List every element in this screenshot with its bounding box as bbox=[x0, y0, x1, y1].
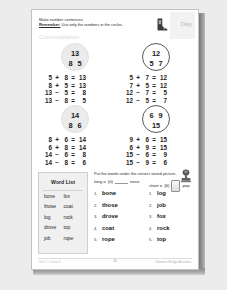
section-watermark: Consolidation bbox=[39, 34, 79, 40]
answer-number: 1. bbox=[149, 191, 157, 196]
eq-result: 14 bbox=[75, 136, 86, 143]
word-list-divider bbox=[43, 190, 83, 191]
eq-result: 8 bbox=[75, 89, 86, 96]
number-circle-3: 14 8 6 bbox=[61, 105, 89, 133]
word-list-box: Word List bone fox those coat log rock d… bbox=[38, 172, 88, 254]
word-list-item: coat bbox=[64, 204, 84, 209]
word-list-item: rope bbox=[64, 236, 84, 241]
equation-row: 12 − 5 = 7 bbox=[124, 97, 167, 105]
word-list-words: bone fox those coat log rock drove top j… bbox=[44, 194, 83, 241]
eq-operand-a: 7 bbox=[124, 82, 133, 89]
circle-parts-2: 5 7 bbox=[143, 59, 169, 68]
eq-operator: − bbox=[133, 89, 140, 96]
eq-operand-a: 14 bbox=[43, 151, 52, 158]
circle-parts-4: 6 9 bbox=[143, 111, 169, 120]
answer-number: 2. bbox=[149, 203, 157, 208]
eq-operand-a: 13 bbox=[43, 89, 52, 96]
eq-operand-b: 6 bbox=[59, 151, 68, 158]
eq-operator: + bbox=[52, 136, 59, 143]
answer-row: 1. bone bbox=[94, 190, 118, 202]
circle-part-1a: 8 bbox=[68, 59, 72, 68]
answer-word: rock bbox=[157, 225, 169, 231]
eq-operand-b: 6 bbox=[140, 151, 149, 158]
answer-word: top bbox=[157, 236, 166, 242]
eq-equals: = bbox=[68, 82, 75, 89]
eq-operator: + bbox=[52, 82, 59, 89]
eq-operand-a: 6 bbox=[124, 144, 133, 151]
equation-row: 15 − 6 = 9 bbox=[124, 151, 167, 159]
equation-group-4: 9 + 6 = 15 6 + 9 = 15 15 − 6 = bbox=[124, 136, 167, 166]
circle-part-2b: 7 bbox=[159, 59, 163, 68]
day-tab-label: Day bbox=[181, 20, 192, 27]
eq-operand-b: 7 bbox=[140, 89, 149, 96]
eq-operator: − bbox=[133, 151, 140, 158]
equation-row: 6 + 8 = 14 bbox=[43, 144, 86, 152]
answer-word: drove bbox=[102, 213, 118, 219]
eq-operand-a: 6 bbox=[43, 144, 52, 151]
eq-operator: − bbox=[133, 97, 140, 104]
page-footer: Unit 5 · Lesson 3 35 Summer Bridge Activ… bbox=[32, 258, 198, 265]
footer-right-text: Summer Bridge Activities bbox=[156, 260, 191, 264]
eq-operator: − bbox=[52, 97, 59, 104]
equation-row: 6 + 9 = 15 bbox=[124, 144, 167, 152]
word-list-item: drove bbox=[44, 225, 64, 230]
equation-row: 14 − 6 = 8 bbox=[43, 151, 86, 159]
page-background: Make number sentences. Remember: Use onl… bbox=[0, 0, 227, 290]
eq-result: 15 bbox=[156, 144, 167, 151]
circle-part-2a: 5 bbox=[149, 59, 153, 68]
phonics-instruction: Put the words under the correct sound-pi… bbox=[94, 171, 176, 176]
equation-row: 9 + 6 = 15 bbox=[124, 136, 167, 144]
answer-row: 5. top bbox=[149, 236, 169, 248]
circle-whole-4: 15 bbox=[143, 121, 169, 130]
instruction-line-2: Remember: Use only the numbers in the ci… bbox=[39, 22, 157, 27]
equation-row: 15 − 9 = 6 bbox=[124, 159, 167, 167]
eq-operand-a: 14 bbox=[43, 159, 52, 166]
equation-row: 5 + 8 = 13 bbox=[43, 74, 86, 82]
circle-whole-3: 14 bbox=[62, 111, 88, 120]
eq-operator: + bbox=[133, 74, 140, 81]
long-o-label: long o bbox=[94, 179, 106, 184]
eq-operand-a: 12 bbox=[124, 89, 133, 96]
eq-operator: − bbox=[133, 159, 140, 166]
remember-text: Use only the numbers in the circles. bbox=[60, 22, 123, 27]
eq-operand-a: 8 bbox=[43, 136, 52, 143]
eq-operand-a: 15 bbox=[124, 151, 133, 158]
answer-blank[interactable] bbox=[115, 179, 128, 184]
answer-number: 3. bbox=[149, 214, 157, 219]
answer-row: 2. job bbox=[149, 202, 169, 214]
column-heading-long-o: long o (ō) nose bbox=[94, 179, 139, 184]
word-list-title: Word List bbox=[39, 179, 87, 185]
answer-number: 5. bbox=[94, 237, 102, 242]
answer-row: 3. fox bbox=[149, 213, 169, 225]
circle-parts-1: 8 5 bbox=[62, 59, 88, 68]
long-o-example: nose bbox=[130, 179, 139, 184]
word-list-item: fox bbox=[64, 194, 84, 199]
eq-operand-a: 12 bbox=[124, 97, 133, 104]
equation-row: 8 + 5 = 13 bbox=[43, 82, 86, 90]
word-list-item: those bbox=[44, 204, 64, 209]
answer-row: 3. drove bbox=[94, 213, 118, 225]
eq-result: 6 bbox=[75, 159, 86, 166]
eq-operand-b: 5 bbox=[140, 82, 149, 89]
equation-group-2: 5 + 7 = 12 7 + 5 = 12 12 − 7 = bbox=[124, 74, 167, 104]
eq-operand-b: 9 bbox=[140, 159, 149, 166]
book-spine-shadow bbox=[198, 13, 205, 275]
equation-row: 13 − 5 = 8 bbox=[43, 89, 86, 97]
eq-operand-b: 6 bbox=[140, 136, 149, 143]
answer-number: 1. bbox=[94, 191, 102, 196]
eq-equals: = bbox=[149, 144, 156, 151]
answer-row: 2. those bbox=[94, 202, 118, 214]
equation-row: 7 + 5 = 12 bbox=[124, 82, 167, 90]
eq-operator: + bbox=[52, 144, 59, 151]
eq-operator: + bbox=[133, 136, 140, 143]
answer-number: 3. bbox=[94, 214, 102, 219]
word-list-item: log bbox=[44, 215, 64, 220]
eq-operator: + bbox=[133, 82, 140, 89]
answer-word: job bbox=[157, 202, 166, 208]
eq-operator: + bbox=[52, 74, 59, 81]
circle-parts-3: 8 6 bbox=[62, 121, 88, 130]
answer-number: 2. bbox=[94, 203, 102, 208]
eq-result: 8 bbox=[75, 151, 86, 158]
eq-operand-b: 5 bbox=[59, 82, 68, 89]
eq-result: 13 bbox=[75, 82, 86, 89]
